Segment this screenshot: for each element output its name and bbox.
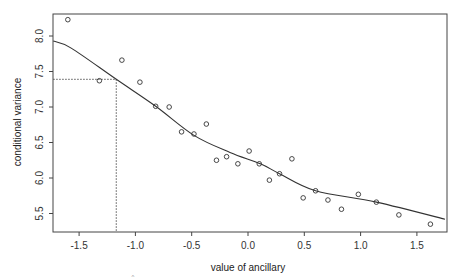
chart: -1.5-1.0-0.50.00.51.01.5 5.56.06.57.07.5… <box>0 0 458 280</box>
data-points <box>66 17 433 226</box>
data-point <box>214 158 219 163</box>
data-point <box>397 213 402 218</box>
data-point <box>236 162 241 167</box>
x-tick-label: 0.0 <box>241 240 255 251</box>
data-point <box>224 154 229 159</box>
y-axis-title: conditional variance <box>12 77 23 166</box>
data-point <box>339 207 344 212</box>
y-tick-label: 7.5 <box>34 64 45 78</box>
data-point <box>247 149 252 154</box>
hat-mark: ^ <box>132 274 135 280</box>
x-tick-label: 1.0 <box>354 240 368 251</box>
data-point <box>356 192 361 197</box>
data-point <box>326 198 331 203</box>
data-point <box>120 58 125 63</box>
y-tick-label: 5.5 <box>34 206 45 220</box>
data-point <box>301 196 306 201</box>
fitted-curve <box>53 41 445 219</box>
data-point <box>204 122 209 127</box>
x-axis-title: value of ancillary <box>211 262 285 273</box>
data-point <box>66 17 71 22</box>
x-axis: -1.5-1.0-0.50.00.51.01.5 <box>70 232 424 251</box>
data-point <box>138 80 143 85</box>
y-tick-label: 6.5 <box>34 135 45 149</box>
data-point <box>267 178 272 183</box>
y-tick-label: 8.0 <box>34 29 45 43</box>
plot-frame <box>53 14 447 232</box>
x-tick-label: -1.0 <box>127 240 145 251</box>
data-point <box>179 130 184 135</box>
y-axis: 5.56.06.57.07.58.0 <box>34 29 53 221</box>
data-point <box>167 105 172 110</box>
x-tick-label: -1.5 <box>70 240 88 251</box>
y-tick-label: 6.0 <box>34 171 45 185</box>
data-point <box>290 157 295 162</box>
x-tick-label: 0.5 <box>297 240 311 251</box>
x-tick-label: -0.5 <box>183 240 201 251</box>
y-tick-label: 7.0 <box>34 100 45 114</box>
reference-lines <box>53 79 116 232</box>
fitted-curve-line <box>53 41 445 219</box>
data-point <box>428 222 433 227</box>
x-tick-label: 1.5 <box>410 240 424 251</box>
